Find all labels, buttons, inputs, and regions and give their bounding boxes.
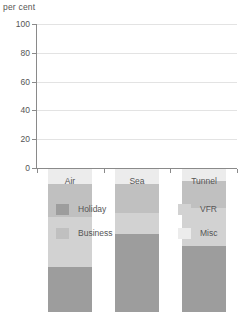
x-tick-mark-3	[237, 169, 238, 173]
legend-swatch-vfr	[178, 204, 191, 215]
y-tick-text: 100	[4, 20, 30, 28]
legend-label-holiday: Holiday	[78, 204, 106, 215]
x-tick-mark-0	[37, 169, 38, 173]
y-tick-text: 0	[4, 164, 30, 172]
y-tick-label-60: 60	[0, 78, 30, 86]
y-tick-label-20: 20	[0, 135, 30, 143]
x-axis-label-sea: Sea	[107, 176, 167, 186]
plot-area	[37, 24, 237, 168]
x-tick-mark-2	[170, 169, 171, 173]
x-tick-mark-1	[104, 169, 105, 173]
y-tick-text: 80	[4, 49, 30, 57]
legend-label-misc: Misc	[200, 228, 217, 239]
bar-segment-air-holiday	[48, 267, 92, 312]
x-axis-label-air: Air	[40, 176, 100, 186]
y-tick-label-40: 40	[0, 106, 30, 114]
y-axis-title: per cent	[3, 2, 35, 12]
legend-swatch-misc	[178, 228, 191, 239]
legend-swatch-holiday	[56, 204, 69, 215]
y-tick-text: 20	[4, 135, 30, 143]
y-tick-label-80: 80	[0, 49, 30, 57]
y-tick-label-0: 0	[0, 164, 30, 172]
x-axis-label-tunnel: Tunnel	[174, 176, 234, 186]
legend-swatch-business	[56, 228, 69, 239]
y-tick-text: 60	[4, 78, 30, 86]
y-tick-text: 40	[4, 106, 30, 114]
y-tick-label-100: 100	[0, 20, 30, 28]
x-axis-line	[37, 168, 237, 169]
legend-label-vfr: VFR	[200, 204, 217, 215]
chart-legend: Holiday VFR Business Misc	[56, 203, 236, 249]
bar-segment-tunnel-holiday	[182, 246, 226, 312]
legend-label-business: Business	[78, 228, 113, 239]
